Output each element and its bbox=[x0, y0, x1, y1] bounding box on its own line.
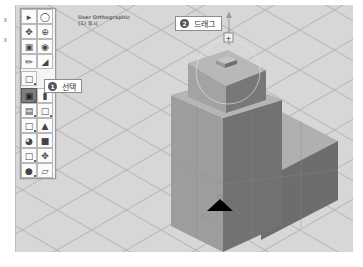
material-icon[interactable]: ● bbox=[21, 163, 37, 178]
cube-outline-icon[interactable]: □ bbox=[37, 103, 53, 118]
ruler-angle-icon[interactable]: ◢ bbox=[37, 54, 53, 69]
snap-target-icon[interactable]: ◉ bbox=[37, 39, 53, 54]
house-shape-icon[interactable]: ▲ bbox=[37, 118, 53, 133]
tool-palette: ▸ ◯ ✥ ⊕ ▣ ◉ ✏ ◢ □ ▣ ▮ ▤ □ □ ▲ ◕ ■ □ ✥ ● … bbox=[20, 8, 56, 179]
3d-viewport[interactable]: + User Orthographic (1) 투시 bbox=[15, 5, 353, 252]
pencil-draw-icon[interactable]: ✏ bbox=[21, 54, 37, 69]
view-sub: (1) 투시 bbox=[78, 20, 130, 26]
paint-bucket-icon[interactable]: ◕ bbox=[21, 133, 37, 148]
callout-select: 1 선택 bbox=[44, 79, 82, 93]
gizmo-move-icon[interactable]: ✥ bbox=[37, 148, 53, 163]
scale-icon[interactable]: ▣ bbox=[21, 39, 37, 54]
margin-mark bbox=[4, 18, 7, 22]
cube-wire-icon[interactable]: □ bbox=[21, 118, 37, 133]
svg-text:+: + bbox=[226, 35, 232, 43]
rotate-view-icon[interactable]: ⊕ bbox=[37, 24, 53, 39]
open-box-icon[interactable]: ▤ bbox=[21, 103, 37, 118]
step-badge: 2 bbox=[180, 19, 189, 28]
orbit-icon[interactable]: ◯ bbox=[37, 9, 53, 24]
viewport-label[interactable]: User Orthographic (1) 투시 bbox=[78, 14, 130, 26]
solid-block-icon[interactable]: ■ bbox=[37, 133, 53, 148]
margin-mark bbox=[4, 38, 7, 42]
box-select-icon[interactable]: □ bbox=[21, 148, 37, 163]
scene-canvas[interactable]: + bbox=[16, 5, 353, 252]
select-arrow-icon[interactable]: ▸ bbox=[21, 9, 37, 24]
callout-drag: 2 드래그 bbox=[175, 16, 222, 31]
step-badge: 1 bbox=[48, 82, 57, 91]
extrude-face-icon[interactable]: ▣ bbox=[21, 88, 37, 103]
add-object-icon[interactable]: □ bbox=[21, 71, 37, 86]
plane-icon[interactable]: ▱ bbox=[37, 163, 53, 178]
callout-label: 선택 bbox=[62, 81, 76, 92]
pan-move-icon[interactable]: ✥ bbox=[21, 24, 37, 39]
callout-label: 드래그 bbox=[194, 18, 215, 29]
